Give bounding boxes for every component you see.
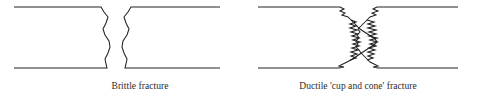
brittle-fracture-panel — [14, 7, 220, 68]
ductile-fracture-caption: Ductile 'cup and cone' fracture — [256, 80, 460, 92]
brittle-right-piece-outline — [122, 7, 220, 68]
ductile-left-fibrous-zigzag — [350, 20, 360, 60]
ductile-fracture-panel — [258, 7, 458, 68]
brittle-fracture-caption: Brittle fracture — [40, 80, 240, 92]
brittle-left-piece-outline — [14, 7, 110, 68]
fracture-figure: Brittle fracture Ductile 'cup and cone' … — [0, 0, 477, 104]
